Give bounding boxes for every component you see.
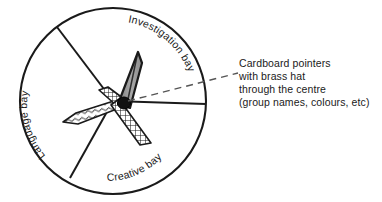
annotation-line-1: Cardboard pointers bbox=[239, 57, 382, 70]
annotation-text: Cardboard pointers with brass hat throug… bbox=[239, 57, 382, 109]
annotation-line-3: through the centre bbox=[239, 83, 382, 96]
annotation-line-2: with brass hat bbox=[239, 70, 382, 83]
brass-hat bbox=[118, 97, 131, 109]
annotation-line-4: (group names, colours, etc) bbox=[239, 96, 382, 109]
